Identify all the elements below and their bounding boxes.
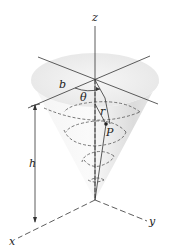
label-x: x bbox=[9, 235, 16, 248]
label-y: y bbox=[148, 215, 156, 228]
label-p: P bbox=[105, 126, 114, 139]
h-arrow-bottom bbox=[33, 217, 37, 223]
label-r: r bbox=[100, 105, 106, 118]
label-theta: θ bbox=[80, 91, 87, 104]
label-h: h bbox=[29, 157, 36, 170]
y-axis bbox=[95, 200, 147, 221]
cone-diagram: z b θ r P h x y bbox=[0, 0, 171, 249]
label-b: b bbox=[59, 78, 66, 91]
label-z: z bbox=[91, 11, 98, 24]
x-axis bbox=[18, 200, 95, 238]
